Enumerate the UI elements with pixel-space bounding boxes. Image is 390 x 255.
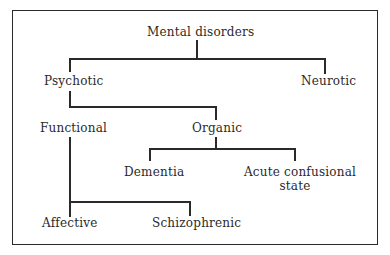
connector-to-acute-confusional [294, 148, 296, 161]
connector-root-bar [69, 58, 325, 60]
connector-functional-bar [69, 201, 190, 203]
connector-root-stem [196, 40, 198, 59]
connector-organic-bar [149, 148, 295, 150]
diagram-canvas: Mental disorders Psychotic Neurotic Func… [0, 0, 390, 255]
node-psychotic: Psychotic [44, 74, 104, 88]
node-functional: Functional [40, 121, 107, 135]
node-neurotic: Neurotic [301, 74, 356, 88]
node-organic: Organic [192, 121, 242, 135]
connector-functional-stem [69, 137, 71, 217]
connector-to-neurotic [324, 58, 326, 74]
connector-to-organic [215, 106, 217, 120]
node-acute-confusional-line1: Acute confusional [244, 165, 346, 179]
connector-to-psychotic [69, 58, 71, 72]
node-dementia: Dementia [124, 165, 184, 179]
node-acute-confusional-line2: state [244, 179, 346, 193]
node-affective: Affective [42, 216, 98, 230]
node-schizophrenic: Schizophrenic [152, 216, 241, 230]
connector-to-dementia [149, 148, 151, 161]
connector-to-schizophrenic [189, 201, 191, 216]
connector-psychotic-bar [69, 106, 216, 108]
node-mental-disorders: Mental disorders [147, 25, 254, 39]
node-acute-confusional-state: Acute confusional state [244, 165, 346, 193]
